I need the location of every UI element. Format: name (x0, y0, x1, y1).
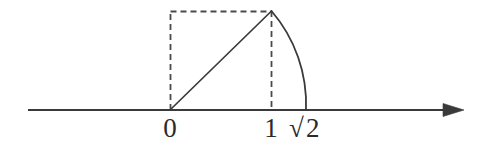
sqrt2-construction-figure: 0 1 √ 2 (0, 0, 485, 144)
number-line-group (28, 104, 464, 117)
geometry-diagram-canvas: 0 1 √ 2 (0, 0, 485, 144)
label-one: 1 (264, 113, 278, 143)
label-sqrt2: √ 2 (289, 113, 320, 143)
compass-arc (272, 11, 307, 110)
radicand-two: 2 (306, 113, 320, 143)
unit-square-diagonal (170, 11, 272, 110)
axis-arrowhead-right-icon (443, 104, 464, 117)
label-zero: 0 (163, 113, 177, 143)
radical-sign-icon: √ (289, 113, 304, 143)
